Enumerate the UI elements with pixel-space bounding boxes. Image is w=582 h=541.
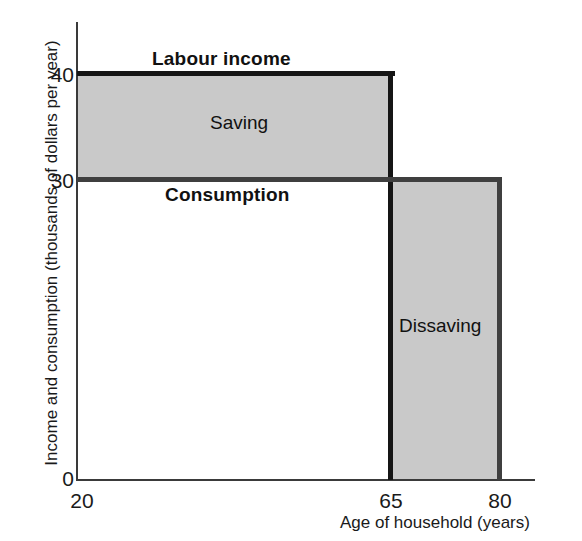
y-tick-label-0: 0	[62, 467, 74, 491]
x-tick-label-20: 20	[70, 489, 93, 513]
x-tick-label-65: 65	[379, 489, 402, 513]
consumption-label: Consumption	[165, 184, 290, 206]
x-axis-title: Age of household (years)	[340, 513, 530, 533]
labour-income-label: Labour income	[152, 48, 291, 70]
consumption-line	[77, 177, 502, 182]
labour-income-dropline-age65	[388, 71, 393, 480]
consumption-dropline-age80	[497, 177, 502, 480]
x-axis-line	[76, 479, 535, 481]
x-tick-label-80: 80	[488, 489, 511, 513]
labour-income-line	[77, 71, 395, 76]
dissaving-region-label: Dissaving	[399, 315, 481, 337]
y-axis-line	[76, 22, 78, 481]
y-axis-title: Income and consumption (thousands of dol…	[42, 18, 62, 488]
saving-region-label: Saving	[210, 112, 268, 134]
chart-figure: 40 30 0 20 65 80 Income and consumption …	[0, 0, 582, 541]
